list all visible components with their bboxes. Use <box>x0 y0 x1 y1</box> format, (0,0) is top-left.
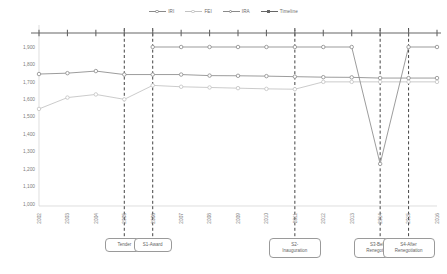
y-axis-tick-label: 1,000 <box>23 202 35 207</box>
x-axis-tick-label: 2010 <box>264 213 269 224</box>
y-axis-tick-label: 1,900 <box>23 45 35 50</box>
annotation-label: S1-Award <box>143 242 163 248</box>
series-point-ira <box>378 162 382 166</box>
series-point-ira <box>236 45 240 49</box>
x-axis-tick-label: 2012 <box>321 213 326 224</box>
x-axis-tick-label: 2005 <box>122 213 127 224</box>
chart-plot-area: 1,0001,1001,2001,3001,4001,5001,6001,700… <box>0 0 447 274</box>
x-axis-tick-label: 2008 <box>207 213 212 224</box>
series-point-fei <box>435 80 439 84</box>
x-axis-tick-label: 2009 <box>236 213 241 224</box>
series-point-iri <box>435 76 439 80</box>
series-point-fei <box>66 96 70 100</box>
series-point-ira <box>407 45 411 49</box>
annotation-label: Tender <box>117 242 131 248</box>
x-axis-tick-label: 2006 <box>151 213 156 224</box>
series-point-fei <box>236 86 240 90</box>
chart-root: IRI FEI IRA Timeline 1,0001,1001,2001,30… <box>0 0 447 274</box>
series-point-iri <box>322 75 326 79</box>
series-point-ira <box>350 45 354 49</box>
annotation-label: S4-AfterRenegotiation <box>395 242 423 254</box>
series-point-fei <box>151 84 155 88</box>
y-axis-tick-label: 1,300 <box>23 149 35 154</box>
series-point-iri <box>37 72 41 76</box>
series-point-iri <box>236 74 240 78</box>
y-axis-tick-label: 1,500 <box>23 114 35 119</box>
series-point-fei <box>322 80 326 84</box>
x-axis-tick-label: 2004 <box>94 213 99 224</box>
series-point-ira <box>293 45 297 49</box>
series-point-iri <box>66 71 70 75</box>
series-point-ira <box>435 45 439 49</box>
series-point-fei <box>350 80 354 84</box>
x-axis-tick-label: 2007 <box>179 213 184 224</box>
series-point-iri <box>179 73 183 77</box>
series-point-ira <box>179 45 183 49</box>
series-point-fei <box>265 87 269 91</box>
x-axis-tick-label: 2016 <box>435 213 440 224</box>
annotation-2006[interactable]: S1-Award <box>134 238 172 252</box>
y-axis-tick-label: 1,800 <box>23 62 35 67</box>
series-point-fei <box>407 80 411 84</box>
x-axis-tick-label: 2013 <box>350 213 355 224</box>
y-axis-tick-label: 1,400 <box>23 132 35 137</box>
series-point-ira <box>265 45 269 49</box>
x-axis-tick-label: 2014 <box>378 213 383 224</box>
series-point-iri <box>407 76 411 80</box>
x-axis-tick-label: 2003 <box>65 213 70 224</box>
series-point-iri <box>208 74 212 78</box>
series-point-iri <box>123 73 127 77</box>
series-point-fei <box>293 87 297 91</box>
x-axis-tick-label: 2002 <box>37 213 42 224</box>
series-point-iri <box>151 73 155 77</box>
x-axis-tick-label: 2011 <box>293 213 298 224</box>
series-point-fei <box>123 98 127 102</box>
y-axis-tick-label: 1,100 <box>23 184 35 189</box>
y-axis-tick-label: 1,700 <box>23 80 35 85</box>
y-axis-tick-label: 1,600 <box>23 97 35 102</box>
annotation-2015[interactable]: S4-AfterRenegotiation <box>383 238 435 258</box>
series-point-ira <box>208 45 212 49</box>
annotation-label: S2-Inauguration <box>282 242 307 254</box>
series-point-iri <box>94 69 98 73</box>
series-point-ira <box>322 45 326 49</box>
series-point-fei <box>208 86 212 90</box>
series-point-ira <box>151 45 155 49</box>
series-point-iri <box>265 74 269 78</box>
y-axis-tick-label: 1,200 <box>23 167 35 172</box>
series-point-iri <box>293 75 297 79</box>
annotation-2011[interactable]: S2-Inauguration <box>269 238 321 258</box>
series-point-fei <box>378 80 382 84</box>
x-axis-tick-label: 2015 <box>406 213 411 224</box>
series-point-fei <box>179 85 183 89</box>
series-point-fei <box>37 107 41 111</box>
series-point-fei <box>94 93 98 97</box>
series-point-iri <box>378 76 382 80</box>
series-point-iri <box>350 76 354 80</box>
series-line-fei <box>39 82 437 109</box>
